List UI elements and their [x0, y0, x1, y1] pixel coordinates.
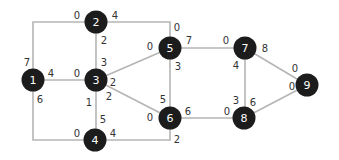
edge-weight-label: 2 [101, 35, 107, 46]
graph-node-9: 9 [296, 74, 319, 97]
edge-4-6 [95, 118, 170, 140]
edge-weight-label: 1 [86, 97, 92, 108]
edge-weight-label: 4 [112, 10, 118, 21]
node-label: 5 [167, 42, 174, 55]
graph-node-7: 7 [234, 37, 257, 60]
edge-weight-label: 6 [37, 94, 43, 105]
edge-weight-label: 0 [174, 22, 180, 33]
edge-weight-label: 0 [147, 112, 153, 123]
node-label: 7 [242, 42, 249, 55]
edge-1-2 [33, 22, 96, 80]
node-label: 2 [93, 16, 100, 29]
edge-weight-label: 6 [185, 106, 191, 117]
edge-weight-label: 7 [24, 57, 30, 68]
graph-node-5: 5 [159, 37, 182, 60]
graph-node-3: 3 [85, 69, 108, 92]
edge-weight-label: 3 [101, 57, 107, 68]
node-label: 9 [304, 79, 311, 92]
graph-node-6: 6 [159, 107, 182, 130]
edge-weight-label: 0 [74, 128, 80, 139]
edge-weight-label: 0 [74, 68, 80, 79]
edge-weight-label: 0 [289, 81, 295, 92]
graph-node-1: 1 [22, 69, 45, 92]
edge-weight-label: 0 [147, 41, 153, 52]
edge-weight-label: 5 [160, 94, 166, 105]
edge-weight-label: 6 [250, 97, 256, 108]
edge-weight-label: 4 [233, 60, 239, 71]
node-label: 6 [167, 112, 174, 125]
graph-node-2: 2 [85, 11, 108, 34]
graph-node-8: 8 [233, 107, 256, 130]
edge-weight-label: 0 [224, 106, 230, 117]
graph-node-4: 4 [84, 129, 107, 152]
edge-weight-label: 0 [74, 10, 80, 21]
edge-weight-label: 8 [262, 43, 268, 54]
edge-weight-label: 4 [48, 68, 54, 79]
edge-1-4 [33, 80, 95, 140]
edge-weight-label: 2 [110, 77, 116, 88]
node-label: 1 [30, 74, 37, 87]
edge-weight-label: 2 [106, 91, 112, 102]
node-label: 4 [92, 134, 99, 147]
edge-weight-label: 0 [223, 35, 229, 46]
edge-weight-label: 4 [110, 128, 116, 139]
edge-weight-label: 3 [233, 95, 239, 106]
node-label: 8 [241, 112, 248, 125]
edge-weight-label: 5 [100, 114, 106, 125]
edge-weight-label: 0 [292, 63, 298, 74]
edge-weight-label: 2 [174, 134, 180, 145]
weighted-graph-diagram: 704023406015202042357060438060 123456789 [0, 0, 339, 160]
edge-weight-label: 3 [175, 61, 181, 72]
node-label: 3 [93, 74, 100, 87]
edge-weight-label: 7 [186, 35, 192, 46]
